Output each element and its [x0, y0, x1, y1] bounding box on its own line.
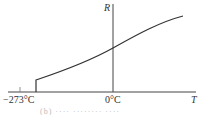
tick-label-zero: 0°C — [105, 95, 121, 105]
tick-label-abs-zero: −273°C — [3, 95, 34, 105]
y-axis-label: R — [104, 3, 110, 13]
resistance-curve — [36, 16, 183, 92]
x-axis-label: T — [191, 95, 197, 105]
figure-caption: (b) ···· ········ ···· — [40, 107, 120, 115]
